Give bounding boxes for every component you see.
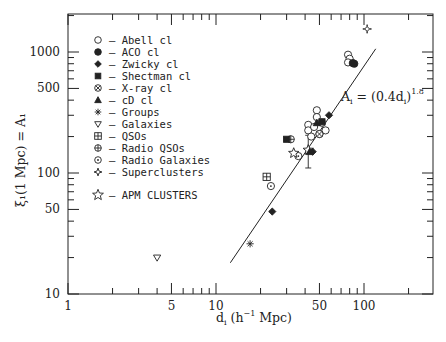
filled-triangle-icon: [95, 97, 102, 103]
circle: [313, 107, 320, 114]
filled-square-icon: [95, 73, 101, 79]
circle-x-icon: [316, 130, 323, 137]
filled-diamond-icon: [269, 208, 276, 215]
open-circle-icon: [308, 133, 315, 140]
square: [284, 136, 290, 142]
asterisk-icon: [95, 109, 102, 116]
circle: [349, 59, 356, 66]
four-point-star-icon: [363, 25, 372, 34]
diamond: [269, 208, 276, 215]
tri: [95, 122, 102, 128]
data-points: [154, 25, 372, 262]
legend-label: – QSOs: [109, 130, 147, 142]
x-tick-label: 5: [168, 299, 176, 313]
legend: – Abell cl– ACO cl– Zwicky cl– Shectman …: [93, 34, 211, 201]
legend-label: – Galaxies: [109, 118, 172, 130]
circle-dot-icon: [267, 182, 274, 189]
asterisk-icon: [247, 240, 254, 247]
open-triangle-down-icon: [154, 255, 161, 261]
chart-canvas: 15105010010501005001000 – Abell cl– ACO …: [0, 0, 446, 342]
circle-x-icon: [95, 85, 102, 92]
legend-label: – X-ray cl: [109, 82, 172, 94]
square: [95, 73, 101, 79]
fit-equation-label: Ai = (0.4di)1.8: [340, 87, 424, 106]
x-tick-label: 1: [64, 299, 72, 313]
x-title-sup: −1: [243, 309, 255, 318]
open-circle-icon: [95, 37, 102, 44]
dot: [297, 155, 299, 157]
legend-label: – Abell cl: [109, 34, 172, 46]
filled-circle-icon: [349, 59, 356, 66]
filled-diamond-icon: [325, 112, 332, 119]
fit-line: [230, 49, 375, 263]
filled-square-icon: [284, 136, 290, 142]
x-title-end: Mpc): [255, 310, 292, 325]
dot: [270, 185, 272, 187]
fit-line-path: [230, 49, 375, 263]
star5: [93, 189, 104, 199]
y-tick-label: 500: [37, 81, 60, 95]
diamond: [95, 61, 102, 68]
legend-label-apm: – APM CLUSTERS: [109, 189, 198, 201]
tri: [154, 255, 161, 261]
four-point-star-icon: [94, 168, 102, 176]
x-tick-label: 100: [353, 299, 376, 313]
ast: [247, 240, 254, 247]
x-tick-label: 50: [312, 299, 327, 313]
legend-label: – Groups: [109, 106, 160, 118]
correlation-amplitude-chart: 15105010010501005001000 – Abell cl– ACO …: [0, 0, 446, 342]
ast: [95, 109, 102, 116]
y-tick-label: 1000: [29, 45, 60, 59]
square-plus-icon: [95, 133, 102, 140]
filled-diamond-icon: [95, 61, 102, 68]
y-axis-title: ξ₁(1 Mpc) = A₁: [13, 113, 28, 207]
axis-tick-labels: 15105010010501005001000: [29, 45, 375, 313]
y-tick-label: 100: [37, 166, 60, 180]
open-star-icon: [93, 189, 104, 199]
star4: [94, 168, 102, 176]
legend-label: – cD cl: [109, 94, 153, 106]
legend-label: – ACO cl: [109, 46, 160, 58]
dot: [97, 159, 99, 161]
open-circle-icon: [313, 107, 320, 114]
star4: [363, 25, 372, 34]
diamond: [325, 112, 332, 119]
circle: [95, 37, 102, 44]
legend-label: – Superclusters: [109, 166, 204, 178]
legend-label: – Radio QSOs: [109, 142, 185, 154]
circle-dot-icon: [95, 157, 102, 164]
circle: [308, 133, 315, 140]
x-title-main: d: [216, 310, 224, 325]
legend-label: – Shectman cl: [109, 70, 191, 82]
circle: [95, 49, 102, 56]
filled-circle-icon: [95, 49, 102, 56]
open-triangle-down-icon: [95, 122, 102, 128]
circle-plus-icon: [95, 145, 102, 152]
tri: [95, 97, 102, 103]
x-axis-title: di (h−1 Mpc): [216, 309, 292, 327]
x-title-rest: (h: [227, 310, 244, 325]
square-plus-icon: [263, 173, 270, 180]
legend-label: – Radio Galaxies: [109, 154, 210, 166]
y-tick-label: 50: [45, 202, 60, 216]
legend-label: – Zwicky cl: [109, 58, 179, 70]
y-tick-label: 10: [45, 287, 60, 301]
